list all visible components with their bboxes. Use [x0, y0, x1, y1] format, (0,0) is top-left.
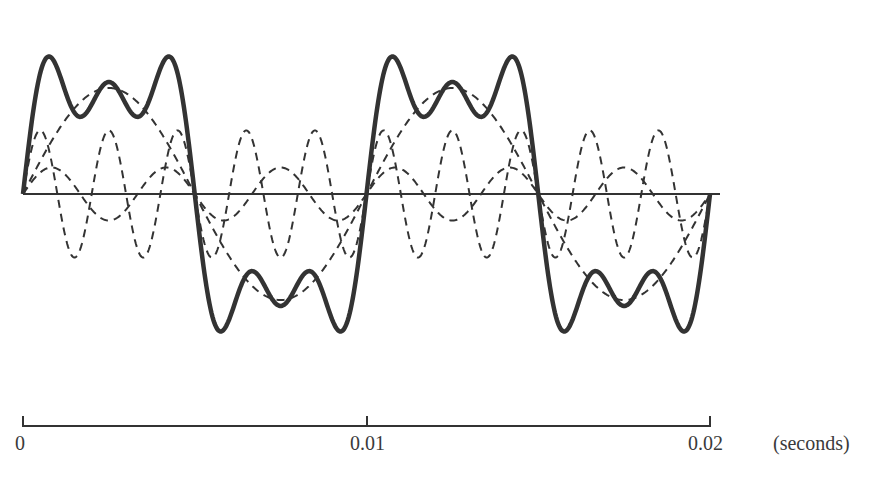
- time-axis: [23, 416, 710, 427]
- tick-label-0.01: 0.01: [350, 432, 385, 455]
- waveform-chart: [0, 0, 886, 477]
- tick-label-0.02: 0.02: [688, 432, 723, 455]
- tick-label-0: 0: [15, 432, 25, 455]
- x-axis-unit-label: (seconds): [773, 432, 850, 455]
